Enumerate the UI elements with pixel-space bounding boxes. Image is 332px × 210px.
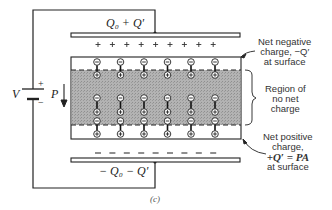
capacitor-dielectric-diagram: Q₀ + Q′ − Q₀ − Q′ V + − P (c) Net negati… [0,0,332,210]
battery-voltage-label: V [12,87,19,102]
polarization-arrow-icon [61,84,67,107]
bottom-plate [71,158,240,162]
bottom-plate-charge-label: − Q₀ − Q′ [99,164,148,179]
battery-plus-label: + [38,78,44,89]
polarization-label: P [51,87,58,102]
battery-minus-label: − [38,97,44,108]
top-plate-charge-label: Q₀ + Q′ [106,16,144,31]
neutral-region-note: Region of no net charge [265,84,306,114]
positive-surface-note: Net positive charge, +Q′ = PA at surface [263,132,313,172]
negative-surface-note: Net negative charge, −Q′ at surface [258,37,311,67]
top-plate [71,33,240,37]
figure-caption: (c) [150,194,160,204]
positive-plate-charges [96,42,216,47]
